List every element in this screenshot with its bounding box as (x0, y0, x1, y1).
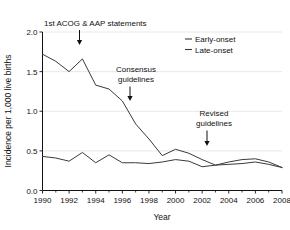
y-tick-label: 0.0 (26, 187, 38, 196)
annotation-arrowhead-3 (204, 141, 209, 146)
y-axis: 0.00.51.01.52.0 (26, 28, 42, 196)
x-tick-label: 1992 (60, 196, 78, 205)
x-tick-label: 2008 (273, 196, 290, 205)
legend: Early-onsetLate-onset (185, 35, 236, 55)
x-tick-label: 1990 (34, 196, 52, 205)
x-tick-label: 2004 (220, 196, 238, 205)
y-tick-label: 1.0 (26, 107, 38, 116)
legend-label-2: Late-onset (195, 46, 234, 55)
annotation-arrowhead-2 (127, 96, 132, 101)
x-tick-label: 2006 (246, 196, 264, 205)
x-tick-label: 1996 (113, 196, 131, 205)
chart-figure: 0.00.51.01.52.0 199019921994199619982000… (0, 0, 290, 230)
line-chart: 0.00.51.01.52.0 199019921994199619982000… (0, 0, 290, 230)
x-tick-label: 1998 (140, 196, 158, 205)
annotation-label-2-line2: guidelines (118, 75, 154, 84)
legend-label-1: Early-onset (195, 35, 236, 44)
y-tick-label: 0.5 (26, 147, 38, 156)
y-tick-label: 2.0 (26, 28, 38, 37)
gridlines (43, 32, 283, 151)
x-tick-label: 1994 (87, 196, 105, 205)
x-axis: 1990199219941996199820002002200420062008 (34, 191, 290, 205)
x-tick-label: 2002 (193, 196, 211, 205)
annotation-label-1: 1st ACOG & AAP statements (44, 19, 147, 28)
y-axis-title: Incidence per 1,000 live births (3, 55, 13, 168)
x-axis-title: Year (153, 212, 170, 222)
annotation-label-3: Revised (200, 109, 229, 118)
annotation-label-3-line2: guidelines (196, 119, 232, 128)
y-tick-label: 1.5 (26, 68, 38, 77)
annotation-arrowhead-1 (77, 40, 82, 45)
series-line-late-onset (43, 152, 283, 167)
annotation-label-2: Consensus (116, 65, 156, 74)
x-tick-label: 2000 (167, 196, 185, 205)
